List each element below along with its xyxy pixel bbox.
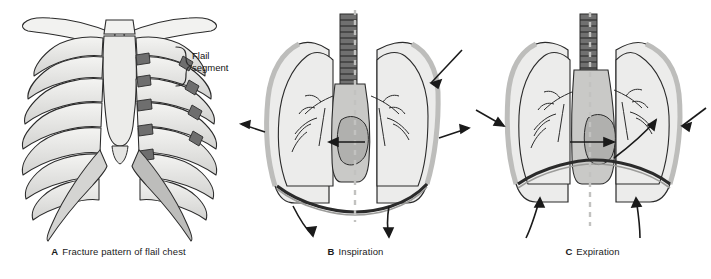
thorax-inspiration-illustration bbox=[237, 0, 474, 245]
trachea bbox=[580, 14, 597, 76]
chest-wall-arrow-right-lower-outward bbox=[439, 125, 469, 138]
chest-wall-arrow-left-inward bbox=[476, 110, 504, 126]
ribs-left-intact bbox=[22, 37, 103, 220]
panel-b-inspiration: BInspiration bbox=[237, 0, 474, 279]
panel-b-caption: BInspiration bbox=[237, 246, 474, 257]
panel-a-caption: AFracture pattern of flail chest bbox=[0, 246, 237, 257]
xiphoid-process bbox=[112, 146, 128, 164]
panel-c-expiration: CExpiration bbox=[474, 0, 711, 279]
flail-segment-label-line2: segment bbox=[192, 62, 228, 74]
ribcage-illustration bbox=[0, 0, 237, 245]
chest-wall-arrow-left-outward bbox=[241, 121, 265, 132]
sternum bbox=[103, 20, 136, 164]
panel-c-letter: C bbox=[565, 246, 572, 257]
heart bbox=[337, 117, 368, 165]
panel-c-caption-text: Expiration bbox=[576, 246, 619, 257]
panel-a-letter: A bbox=[51, 246, 58, 257]
flail-segment-label-line1: Flail bbox=[192, 50, 228, 62]
panel-a-fracture-pattern: Flail segment AFracture pattern of flail… bbox=[0, 0, 237, 279]
diaphragm-arrow-left-ascending bbox=[526, 198, 544, 238]
panel-c-caption: CExpiration bbox=[474, 246, 711, 257]
panel-b-letter: B bbox=[328, 246, 335, 257]
flail-chest-figure: Flail segment AFracture pattern of flail… bbox=[0, 0, 711, 279]
flail-segment-label: Flail segment bbox=[192, 50, 228, 73]
thorax-expiration-illustration bbox=[474, 0, 711, 245]
diaphragm-arrow-left-descending bbox=[293, 206, 316, 236]
chest-wall-arrow-right-inward bbox=[682, 108, 706, 131]
panel-b-caption-text: Inspiration bbox=[339, 246, 384, 257]
diaphragm-arrow-right-ascending bbox=[632, 198, 641, 238]
panel-a-caption-text: Fracture pattern of flail chest bbox=[62, 246, 186, 257]
